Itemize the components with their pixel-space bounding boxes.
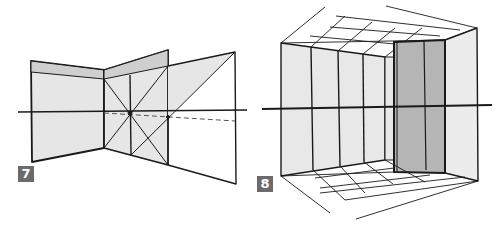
vanishing-point [128,111,132,115]
intersection-point [167,116,170,119]
illustration-canvas [0,0,502,229]
left-wall [281,43,385,176]
figure-8 [262,6,492,219]
figure-8-badge: 8 [257,176,273,192]
figure-7-badge: 7 [18,166,34,182]
figure-7 [18,50,247,184]
back-wall-strip [385,57,394,160]
